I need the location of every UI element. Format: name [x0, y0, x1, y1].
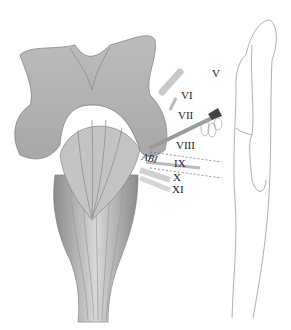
label-nerve-viii: VIII: [176, 140, 195, 151]
label-nerve-xi: XI: [172, 184, 184, 195]
brainstem-drawing: [0, 0, 291, 330]
label-nerve-ix: IX: [174, 158, 186, 169]
label-nerve-vi: VI: [181, 90, 193, 101]
label-nerve-x: X: [173, 172, 181, 183]
label-nerve-vii: VII: [178, 110, 193, 121]
head-outline: [232, 20, 276, 318]
anatomical-illustration: V VI VII VIII ABI IX X XI: [0, 0, 291, 330]
label-nerve-v: V: [212, 68, 220, 79]
